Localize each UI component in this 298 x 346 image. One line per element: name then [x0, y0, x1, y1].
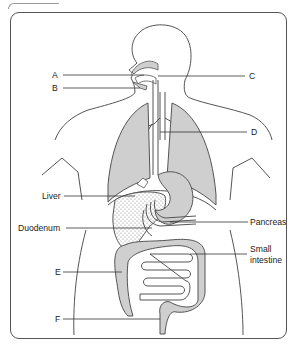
- label-b: B: [52, 83, 58, 93]
- digestive-system-illustration: [0, 0, 298, 346]
- label-small-intestine-line2: intestine: [250, 255, 282, 265]
- small-intestine: [140, 254, 193, 300]
- lungs: [108, 103, 216, 205]
- label-d: D: [251, 127, 257, 137]
- label-e: E: [55, 267, 61, 277]
- body-outline: [42, 25, 272, 335]
- label-small-intestine-line1: Small: [250, 244, 272, 254]
- label-liver: Liver: [42, 191, 61, 201]
- label-a: A: [52, 70, 58, 80]
- oesophagus-trachea: [153, 80, 165, 175]
- label-pancreas: Pancreas: [250, 217, 286, 227]
- mouth-region: [132, 61, 158, 90]
- label-c: C: [249, 71, 255, 81]
- label-f: F: [55, 314, 60, 324]
- label-duodenum: Duodenum: [18, 223, 60, 233]
